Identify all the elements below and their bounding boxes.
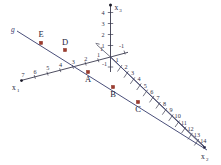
diagram-canvas: 4 3 2 1 x 3 1 2 3 4 5 6 7 x 1 -1 1 -1 1 xyxy=(0,0,221,165)
x3-tick-2: 2 xyxy=(102,31,105,38)
x2-tick-8: 8 xyxy=(163,100,166,107)
x1-tick-6: 6 xyxy=(34,68,37,75)
x2-tick-1: 1 xyxy=(115,56,118,63)
x1-tick-7: 7 xyxy=(21,71,24,78)
line-second xyxy=(111,57,207,148)
point-label-B: B xyxy=(110,89,116,99)
x1-tick-3: 3 xyxy=(72,58,75,65)
neg-x1-label: -1 xyxy=(119,42,124,49)
x2-tick-4: 4 xyxy=(137,75,140,82)
origin-neg-x3-label: -1 xyxy=(102,60,107,67)
axis-label-x2-subscript: 2 xyxy=(206,157,209,162)
axis-x3 xyxy=(108,4,113,73)
axis-label-x2: x xyxy=(201,152,205,161)
x2-tick-5: 5 xyxy=(144,82,147,89)
axis-label-x1-subscript: 1 xyxy=(17,88,20,93)
x1-tick-2: 2 xyxy=(84,55,87,62)
x3-tick-4: 4 xyxy=(102,9,105,16)
x1-tick-4: 4 xyxy=(59,61,62,68)
point-label-E: E xyxy=(38,29,43,39)
point-label-D: D xyxy=(62,37,68,47)
x2-tick-6: 6 xyxy=(150,88,153,95)
axis-label-x1: x xyxy=(12,83,16,92)
axis-label-x3: x xyxy=(115,3,119,12)
origin-pos-label: 1 xyxy=(100,45,103,52)
x1-tick-1: 1 xyxy=(97,51,100,58)
point-E xyxy=(39,41,42,44)
line-g-label: g xyxy=(11,25,15,34)
point-label-A: A xyxy=(85,74,92,84)
x2-tick-7: 7 xyxy=(157,94,160,101)
axis-label-x3-subscript: 3 xyxy=(119,8,122,13)
point-D xyxy=(63,48,66,51)
point-label-C: C xyxy=(135,104,141,114)
x2-tick-2: 2 xyxy=(125,63,128,70)
x1-tick-5: 5 xyxy=(46,64,49,71)
x3-tick-3: 3 xyxy=(102,20,105,27)
x2-tick-3: 3 xyxy=(131,69,134,76)
x2-tick-9: 9 xyxy=(169,106,172,113)
